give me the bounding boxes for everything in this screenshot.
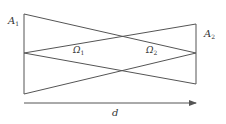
beam-line-3: [24, 53, 196, 84]
label-a2: A2: [203, 28, 215, 40]
beam-line-4: [24, 53, 196, 94]
beam-line-1: [24, 14, 196, 53]
beam-line-2: [24, 24, 196, 53]
crossed-beams-diagram: A1 A2 Ω1 Ω2 d: [0, 0, 226, 124]
label-omega1: Ω1: [72, 45, 84, 56]
label-distance: d: [112, 107, 118, 118]
label-omega2: Ω2: [145, 45, 157, 56]
label-a1: A1: [7, 15, 19, 27]
